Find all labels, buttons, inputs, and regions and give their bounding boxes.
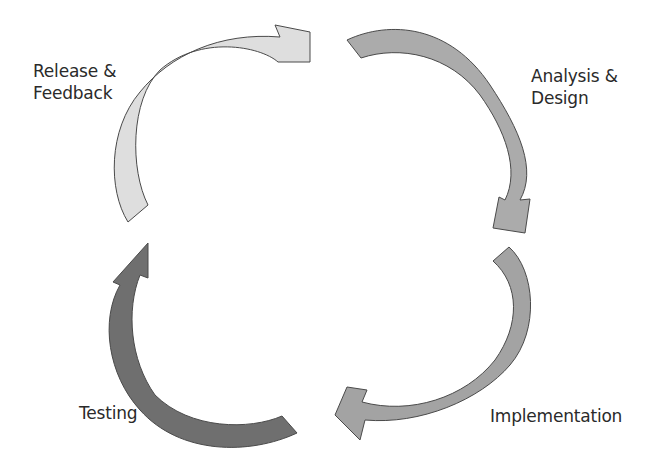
stage-label-release-feedback: Release & Feedback — [33, 60, 116, 104]
arrow-analysis-design-shape — [347, 29, 530, 233]
arrow-release-feedback-shape — [114, 25, 310, 222]
stage-label-analysis-design: Analysis & Design — [531, 65, 618, 109]
arrow-analysis-design — [347, 29, 530, 233]
stage-label-testing: Testing — [79, 402, 137, 424]
lifecycle-diagram: Release & Feedback Analysis & Design Imp… — [0, 0, 670, 472]
arrow-release-feedback — [114, 25, 310, 222]
stage-label-implementation: Implementation — [490, 405, 622, 427]
